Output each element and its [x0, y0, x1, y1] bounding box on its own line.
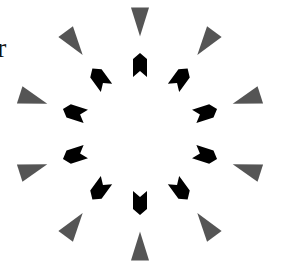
outer-triangle-ring — [17, 8, 263, 261]
outer-triangle — [190, 208, 222, 242]
outer-triangle — [230, 156, 263, 182]
outer-triangle — [131, 232, 149, 261]
outer-triangle — [58, 208, 90, 242]
radial-arrow-figure — [0, 0, 281, 264]
inner-arrow-ring — [61, 53, 219, 215]
outer-triangle — [58, 26, 90, 60]
inner-arrow — [192, 102, 219, 123]
outer-triangle — [17, 156, 50, 182]
inner-arrow — [133, 53, 147, 77]
inner-arrow — [133, 191, 147, 215]
outer-triangle — [230, 86, 263, 112]
inner-arrow — [168, 64, 193, 92]
inner-arrow — [61, 145, 88, 166]
outer-triangle — [131, 8, 149, 37]
inner-arrow — [87, 64, 112, 92]
outer-triangle — [190, 26, 222, 60]
outer-triangle — [17, 86, 50, 112]
inner-arrow — [87, 176, 112, 204]
inner-arrow — [168, 176, 193, 204]
inner-arrow — [61, 102, 88, 123]
inner-arrow — [192, 145, 219, 166]
